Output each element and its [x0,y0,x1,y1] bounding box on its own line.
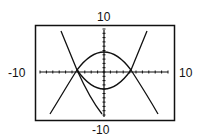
steep-curve-b-left [50,70,77,114]
steep-curve-b-right [131,70,158,114]
graph-plot [0,0,200,137]
steep-curve-a-right [131,31,147,70]
axis-ticks [40,29,168,115]
